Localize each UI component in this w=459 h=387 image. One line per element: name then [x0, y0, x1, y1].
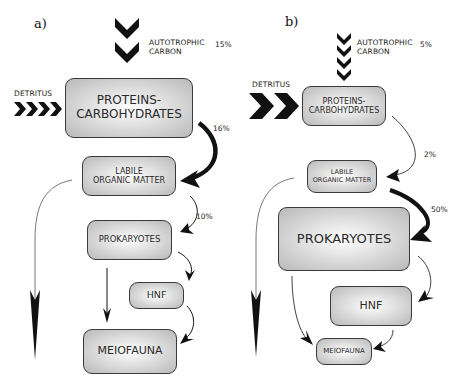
panel-b-label: b)	[285, 14, 298, 29]
labile-line2: ORGANIC MATTER	[313, 177, 372, 184]
autotrophic-carbon-label-a: AUTOTROPHIC CARBON	[149, 38, 205, 56]
flow-arrow-labile-loss-a	[35, 180, 72, 345]
flow-arrow-proteins-labile-b	[392, 116, 415, 175]
proteins-line2: CARBOHYDRATES	[76, 108, 182, 122]
autotrophic-label-line2: CARBON	[357, 47, 413, 56]
hnf-text: HNF	[147, 290, 167, 301]
box-prokaryotes-a: PROKARYOTES	[87, 220, 172, 260]
autotrophic-chevron-icon-b	[337, 33, 351, 81]
box-proteins-carbohydrates-b: PROTEINS- CARBOHYDRATES	[302, 86, 386, 126]
flow-arrow-hnf-meiofauna-a	[186, 306, 194, 338]
prokaryotes-text: PROKARYOTES	[297, 232, 391, 247]
box-meiofauna-a: MEIOFAUNA	[83, 329, 177, 374]
labile-line1: LABILE	[93, 167, 165, 176]
flow-pct-labile-prokaryotes-b: 50%	[431, 205, 448, 214]
autotrophic-label-line1: AUTOTROPHIC	[357, 38, 413, 47]
proteins-line1: PROTEINS-	[309, 97, 379, 106]
box-proteins-carbohydrates-a: PROTEINS- CARBOHYDRATES	[65, 78, 193, 138]
detritus-label-b: DETRITUS	[252, 80, 290, 89]
labile-line2: ORGANIC MATTER	[93, 176, 165, 185]
autotrophic-chevron-icon-a	[115, 18, 139, 63]
flow-pct-labile-prokaryotes-a: 10%	[196, 212, 213, 221]
flow-arrows-layer	[0, 0, 459, 387]
flow-pct-proteins-labile-a: 16%	[213, 124, 230, 133]
detritus-chevron-icon-a	[14, 102, 62, 116]
flow-pct-proteins-labile-b: 2%	[424, 150, 436, 159]
panel-a-label: a)	[34, 16, 47, 31]
autotrophic-pct-a: 15%	[215, 40, 232, 49]
proteins-line1: PROTEINS-	[76, 94, 182, 108]
flow-arrow-prokaryotes-hnf-a	[178, 252, 192, 276]
box-labile-organic-matter-b: LABILE ORGANIC MATTER	[307, 160, 377, 193]
detritus-chevron-icon-b	[249, 93, 299, 119]
box-hnf-b: HNF	[330, 286, 412, 326]
autotrophic-carbon-label-b: AUTOTROPHIC CARBON	[357, 38, 413, 56]
box-meiofauna-b: MEIOFAUNA	[316, 338, 372, 365]
meiofauna-text: MEIOFAUNA	[98, 345, 163, 358]
flow-arrow-prokaryotes-meiofauna-b	[292, 276, 310, 342]
prokaryotes-text: PROKARYOTES	[99, 235, 161, 245]
autotrophic-label-line1: AUTOTROPHIC	[149, 38, 205, 47]
proteins-line2: CARBOHYDRATES	[309, 106, 379, 115]
box-prokaryotes-b: PROKARYOTES	[278, 207, 410, 271]
box-hnf-a: HNF	[129, 282, 184, 309]
flow-arrow-proteins-labile-a	[192, 123, 215, 178]
detritus-label-a: DETRITUS	[14, 89, 52, 98]
meiofauna-text: MEIOFAUNA	[323, 347, 364, 355]
autotrophic-label-line2: CARBON	[149, 47, 205, 56]
box-labile-organic-matter-a: LABILE ORGANIC MATTER	[82, 156, 176, 196]
hnf-text: HNF	[360, 300, 383, 313]
autotrophic-pct-b: 5%	[420, 40, 432, 49]
